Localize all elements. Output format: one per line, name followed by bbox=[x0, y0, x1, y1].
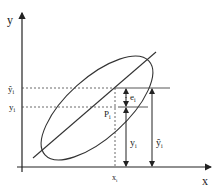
y-axis-label: y bbox=[7, 13, 13, 27]
x-i-label: xi bbox=[112, 173, 118, 183]
residual-label: ei bbox=[130, 92, 136, 103]
y-i-arrow-label: yi bbox=[130, 137, 137, 149]
regression-diagram: y x ŷi yi xi Pi ei yi ŷi bbox=[0, 0, 220, 191]
y-i-label: yi bbox=[9, 102, 16, 113]
y-hat-label: ŷi bbox=[8, 84, 15, 95]
point-label: Pi bbox=[104, 109, 111, 120]
regression-line bbox=[33, 52, 156, 158]
x-axis-label: x bbox=[202, 174, 208, 188]
y-hat-arrow-label: ŷi bbox=[156, 137, 163, 149]
